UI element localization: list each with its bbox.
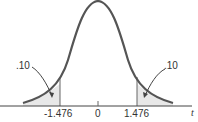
right-area-label: .10 (164, 61, 178, 71)
tick-label-left: -1.476 (44, 109, 72, 119)
tick-label-right: 1.476 (124, 109, 149, 119)
tick-label-center: 0 (95, 109, 101, 119)
left-area-label: .10 (16, 61, 30, 71)
x-axis-label: t (191, 108, 194, 118)
density-curve (23, 1, 173, 103)
